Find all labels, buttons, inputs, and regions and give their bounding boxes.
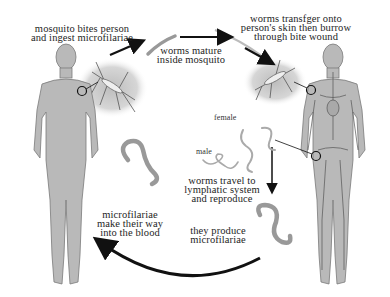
step-label-line: through bite wound xyxy=(222,32,370,41)
arrow-bite-to-mature xyxy=(110,42,140,55)
worm-label-male: male xyxy=(196,148,212,156)
step-label-line: microfilariae xyxy=(178,235,258,244)
microfilaria-left xyxy=(123,141,157,184)
step-label-blood: microfilariae make their way into the bl… xyxy=(90,210,170,237)
step-label-mature: worms mature inside mosquito xyxy=(146,46,236,64)
step-label-line: and ingest microfilariae xyxy=(12,33,152,42)
arrow-produce-to-blood xyxy=(100,242,260,276)
step-label-bite: mosquito bites person and ingest microfi… xyxy=(12,24,152,42)
step-label-line: and reproduce xyxy=(172,194,272,203)
step-label-travel: worms travel to lymphatic system and rep… xyxy=(172,176,272,203)
arrow-transfer-to-skin xyxy=(245,48,270,62)
male-worm xyxy=(203,154,238,168)
worm-label-female: female xyxy=(214,114,236,122)
step-label-line: inside mosquito xyxy=(146,55,236,64)
step-label-transfer: worms transfger onto person's skin then … xyxy=(222,14,370,41)
step-label-line: into the blood xyxy=(90,228,170,237)
microfilaria-right xyxy=(258,205,290,243)
right-mosquito-illustration xyxy=(243,58,307,106)
female-worm xyxy=(241,128,275,172)
step-label-produce: they produce microfilariae xyxy=(178,226,258,244)
